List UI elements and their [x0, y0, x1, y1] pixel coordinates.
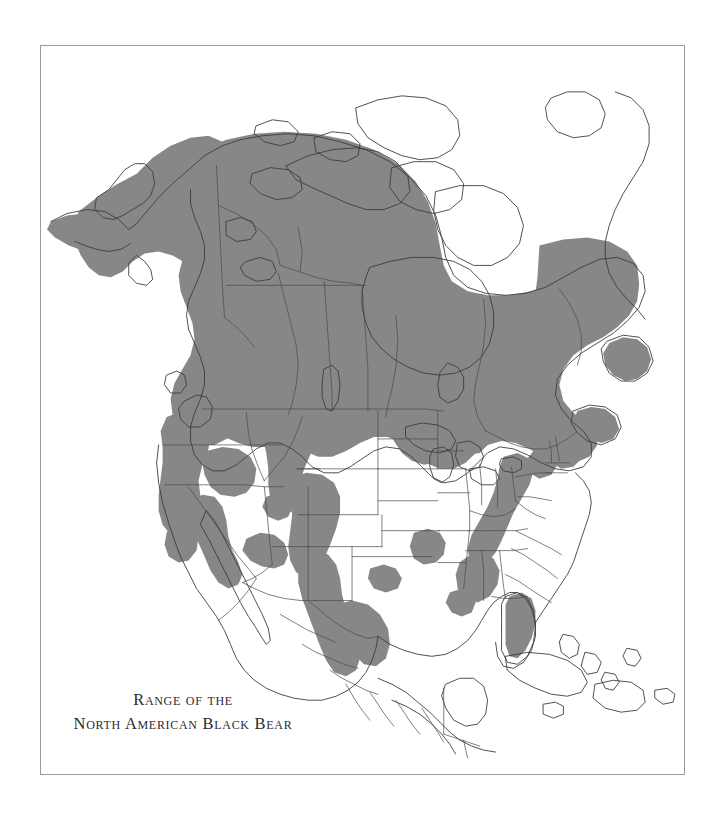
- figure-page: Range of the North American Black Bear: [0, 0, 722, 816]
- range-map: [41, 46, 684, 774]
- map-frame: [40, 45, 685, 775]
